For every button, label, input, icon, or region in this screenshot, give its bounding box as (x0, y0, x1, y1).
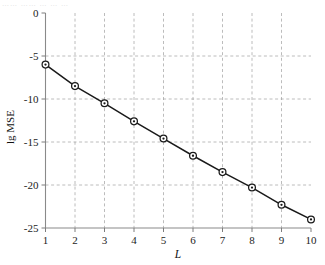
data-point-marker (101, 100, 108, 107)
x-tick-label: 4 (131, 234, 137, 246)
x-tick-label: 2 (72, 234, 78, 246)
y-tick-label: -5 (29, 50, 39, 62)
x-tick-label: 7 (220, 234, 226, 246)
x-tick-label: 5 (161, 234, 167, 246)
horizontal-gridlines (46, 56, 312, 185)
y-tick-label: -15 (24, 136, 39, 148)
data-point-marker (42, 61, 49, 68)
y-tick-label: -10 (24, 93, 39, 105)
data-point-marker (160, 135, 167, 142)
series-markers-lgmse (42, 61, 314, 223)
x-tick-label: 3 (102, 234, 108, 246)
y-tick-label: -20 (24, 179, 39, 191)
y-tick-label: -25 (24, 222, 39, 234)
x-tick-label: 1 (43, 234, 49, 246)
x-axis-title: L (174, 248, 181, 260)
y-axis-tick-marks (42, 13, 46, 228)
y-axis-title: lg MSE (4, 110, 16, 144)
data-point-marker (249, 184, 256, 191)
x-tick-label: 10 (306, 234, 318, 246)
data-point-marker (308, 216, 315, 223)
x-axis-tick-labels: 12345678910 (43, 234, 317, 246)
x-tick-label: 6 (190, 234, 196, 246)
chart-page: …… …… … … … 0-5-10-15-20-25 12345678910 … (0, 0, 325, 265)
y-axis-tick-labels: 0-5-10-15-20-25 (24, 7, 39, 234)
data-point-marker (72, 83, 79, 90)
chart-svg: 0-5-10-15-20-25 12345678910 L lg MSE (0, 0, 325, 265)
data-point-marker (278, 201, 285, 208)
data-point-marker (219, 169, 226, 176)
x-tick-label: 9 (279, 234, 285, 246)
data-point-marker (190, 152, 197, 159)
x-tick-label: 8 (249, 234, 255, 246)
y-tick-label: 0 (33, 7, 39, 19)
vertical-gridlines (75, 13, 282, 228)
x-axis-tick-marks (46, 228, 312, 232)
data-point-marker (131, 118, 138, 125)
line-chart-figure: 0-5-10-15-20-25 12345678910 L lg MSE (0, 0, 325, 265)
